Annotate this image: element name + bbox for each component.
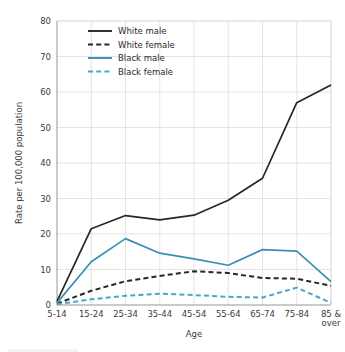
x-tick-label: 5-14 xyxy=(47,309,66,319)
x-tick-label: 45-54 xyxy=(182,309,207,319)
x-tick-label: 65-74 xyxy=(250,309,275,319)
x-tick-label: 25-34 xyxy=(113,309,138,319)
line-chart: 010203040506070805-1415-2425-3435-4445-5… xyxy=(0,0,345,352)
x-tick-label: 55-64 xyxy=(216,309,241,319)
legend-label-white-female: White female xyxy=(118,40,175,50)
y-tick-label: 80 xyxy=(40,16,51,26)
y-tick-label: 10 xyxy=(40,265,51,275)
x-axis-title: Age xyxy=(186,329,202,339)
x-tick-label: over xyxy=(322,318,341,328)
y-tick-label: 70 xyxy=(40,52,51,62)
y-axis-title: Rate per 100,000 population xyxy=(14,102,24,224)
y-tick-label: 60 xyxy=(40,87,51,97)
x-tick-label: 35-44 xyxy=(147,309,172,319)
y-tick-label: 20 xyxy=(40,229,51,239)
y-tick-label: 50 xyxy=(40,123,51,133)
y-tick-label: 30 xyxy=(40,194,51,204)
x-tick-label: 75-84 xyxy=(284,309,309,319)
x-tick-label: 15-24 xyxy=(79,309,104,319)
legend-label-black-male: Black male xyxy=(118,53,165,63)
legend-label-black-female: Black female xyxy=(118,67,173,77)
y-tick-label: 40 xyxy=(40,158,51,168)
chart-canvas: 010203040506070805-1415-2425-3435-4445-5… xyxy=(0,0,345,352)
legend-label-white-male: White male xyxy=(118,26,167,36)
